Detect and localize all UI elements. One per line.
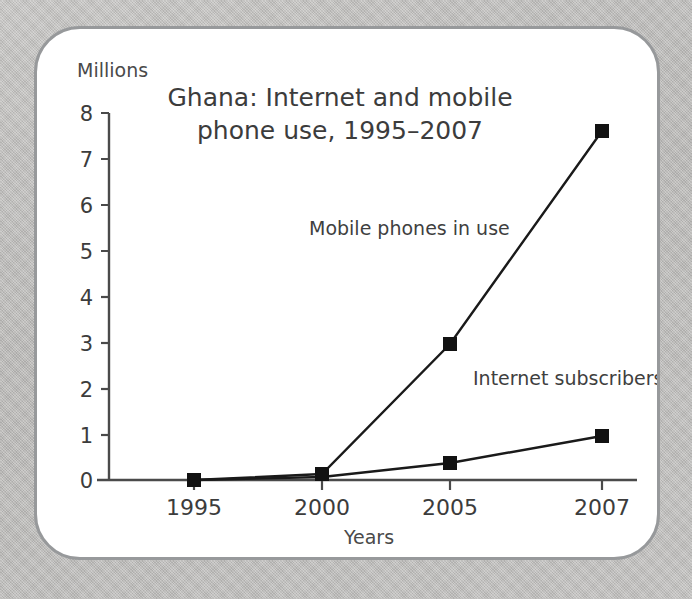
series-annotation-mobile-phones: Mobile phones in use (309, 217, 510, 239)
y-tick-label-5: 5 (63, 240, 93, 264)
x-axis-ticks (194, 480, 602, 490)
y-tick-label-8: 8 (63, 102, 93, 126)
series-line-internet-subscribers (194, 436, 602, 480)
y-tick-label-6: 6 (63, 194, 93, 218)
x-tick-label-1995: 1995 (149, 495, 239, 520)
x-tick-label-2005: 2005 (405, 495, 495, 520)
chart-card: Millions Ghana: Internet and mobile phon… (34, 26, 660, 560)
x-axis-title: Years (309, 526, 429, 548)
x-tick-label-2000: 2000 (277, 495, 367, 520)
y-tick-label-3: 3 (63, 332, 93, 356)
series-line-mobile-phones (194, 131, 602, 480)
y-tick-label-7: 7 (63, 148, 93, 172)
series-markers-mobile-phones (187, 124, 609, 487)
y-tick-label-4: 4 (63, 286, 93, 310)
y-tick-label-0: 0 (63, 469, 93, 493)
chart-plot-area (37, 29, 660, 560)
y-tick-label-1: 1 (63, 424, 93, 448)
x-tick-label-2007: 2007 (557, 495, 647, 520)
y-tick-label-2: 2 (63, 378, 93, 402)
series-annotation-internet-subscribers: Internet subscribers (473, 367, 660, 389)
